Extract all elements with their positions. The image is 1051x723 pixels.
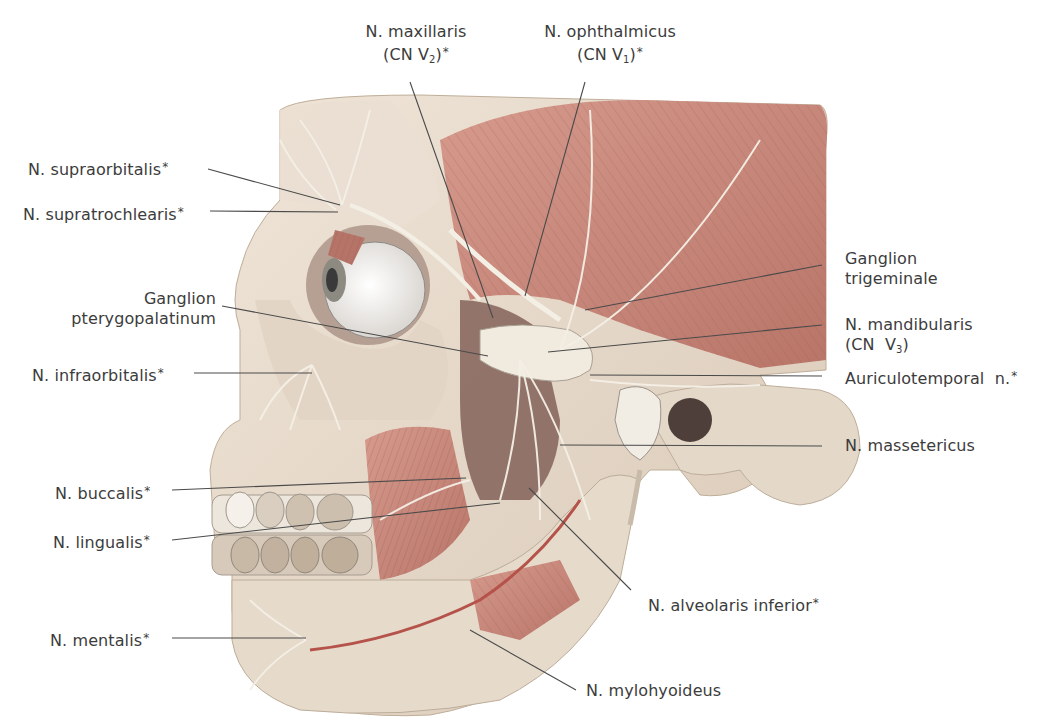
anatomical-figure: N. maxillaris (CN V2)* N. ophthalmicus (… xyxy=(0,0,1051,723)
skull-illustration xyxy=(0,0,1051,723)
label-n-massetericus: N. massetericus xyxy=(845,436,975,456)
label-auriculotemporal-n: Auriculotemporal n.* xyxy=(845,366,1017,389)
label-n-ophthalmicus: N. ophthalmicus (CN V1)* xyxy=(530,22,690,65)
label-text: Auriculotemporal n. xyxy=(845,369,1010,388)
label-n-alveolaris-inferior: N. alveolaris inferior* xyxy=(648,593,819,616)
label-text: N. alveolaris inferior xyxy=(648,596,812,615)
asterisk-marker: * xyxy=(443,45,449,59)
asterisk-marker: * xyxy=(162,160,168,174)
label-text: ) xyxy=(903,335,909,354)
label-n-buccalis: N. buccalis* xyxy=(55,481,150,504)
label-text: N. maxillaris xyxy=(366,22,467,41)
label-ganglion-trigeminale: Ganglion trigeminale xyxy=(845,249,938,289)
teeth xyxy=(212,492,372,575)
label-text: N. mylohyoideus xyxy=(586,681,721,700)
label-n-lingualis: N. lingualis* xyxy=(53,530,150,553)
label-text: trigeminale xyxy=(845,269,938,289)
label-n-infraorbitalis: N. infraorbitalis* xyxy=(32,363,164,386)
label-text: N. mentalis xyxy=(50,631,142,650)
asterisk-marker: * xyxy=(637,45,643,59)
asterisk-marker: * xyxy=(143,631,149,645)
label-text: N. lingualis xyxy=(53,533,143,552)
label-text: Ganglion xyxy=(60,289,216,309)
label-text: N. mandibularis xyxy=(845,315,973,335)
asterisk-marker: * xyxy=(144,533,150,547)
label-text: ) xyxy=(435,45,441,64)
asterisk-marker: * xyxy=(158,366,164,380)
asterisk-marker: * xyxy=(1011,369,1017,383)
label-n-mentalis: N. mentalis* xyxy=(50,628,149,651)
label-text: N. supratrochlearis xyxy=(23,205,177,224)
label-text: ) xyxy=(629,45,635,64)
label-ganglion-pterygopalatinum: Ganglion pterygopalatinum xyxy=(60,289,216,329)
label-text: N. infraorbitalis xyxy=(32,366,157,385)
label-n-supratrochlearis: N. supratrochlearis* xyxy=(23,202,184,225)
asterisk-marker: * xyxy=(178,205,184,219)
label-text: pterygopalatinum xyxy=(60,309,216,329)
label-text: Ganglion xyxy=(845,249,938,269)
label-text: (CN V xyxy=(577,45,623,64)
asterisk-marker: * xyxy=(813,596,819,610)
label-text: (CN V xyxy=(845,335,896,354)
label-text: N. supraorbitalis xyxy=(28,160,161,179)
label-n-maxillaris: N. maxillaris (CN V2)* xyxy=(356,22,476,65)
label-n-mylohyoideus: N. mylohyoideus xyxy=(586,681,721,701)
label-text: N. massetericus xyxy=(845,436,975,455)
label-n-mandibularis: N. mandibularis (CN V3) xyxy=(845,315,973,355)
label-text: (CN V xyxy=(383,45,429,64)
label-text: N. buccalis xyxy=(55,484,143,503)
label-text: N. ophthalmicus xyxy=(544,22,676,41)
asterisk-marker: * xyxy=(144,484,150,498)
label-n-supraorbitalis: N. supraorbitalis* xyxy=(28,157,168,180)
